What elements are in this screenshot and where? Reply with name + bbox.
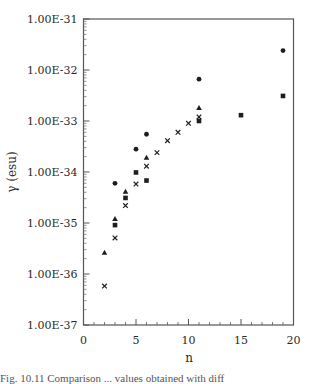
x-tick-label: 5 [133,334,140,347]
data-points [102,48,286,288]
y-tick-label: 1.00E-31 [27,13,77,26]
circle-marker [134,147,139,152]
plot-axes [84,19,294,325]
triangle-marker [144,155,150,160]
cross-marker [155,150,160,155]
y-tick-label: 1.00E-35 [27,217,77,230]
cross-marker [113,236,118,241]
x-axis-ticks: 05101520 [80,319,301,347]
triangle-marker [123,189,129,194]
cross-marker [197,115,202,120]
cross-marker [144,164,149,169]
x-tick-label: 0 [80,334,87,347]
plot-frame [84,19,294,325]
square-marker [113,223,118,228]
cross-marker [134,182,139,187]
square-marker [123,196,128,201]
cross-marker [123,203,128,208]
cross-marker [102,284,107,289]
cross-marker [186,121,191,126]
figure-caption: Fig. 10.11 Comparison ... values obtaine… [0,372,312,384]
circle-marker [144,132,149,137]
triangle-marker [112,216,118,221]
y-tick-label: 1.00E-34 [27,166,77,179]
cross-marker [176,130,181,135]
x-tick-label: 10 [182,334,196,347]
circle-marker [197,77,202,82]
cross-marker [165,138,170,143]
circle-marker [113,181,118,186]
y-tick-label: 1.00E-33 [27,115,77,128]
y-axis-label: γ (esu) [5,151,19,192]
square-marker [239,113,244,118]
y-tick-label: 1.00E-32 [27,64,77,77]
y-tick-label: 1.00E-37 [27,319,77,332]
x-tick-label: 20 [287,334,301,347]
square-marker [144,178,149,183]
square-marker [134,170,139,175]
y-tick-label: 1.00E-36 [27,268,77,281]
circle-marker [281,48,286,53]
triangle-marker [102,250,108,255]
triangle-marker [196,105,202,110]
square-marker [281,94,286,99]
x-tick-label: 15 [234,334,248,347]
y-axis-ticks: 1.00E-311.00E-321.00E-331.00E-341.00E-35… [27,13,89,332]
x-axis-label: n [185,351,193,365]
